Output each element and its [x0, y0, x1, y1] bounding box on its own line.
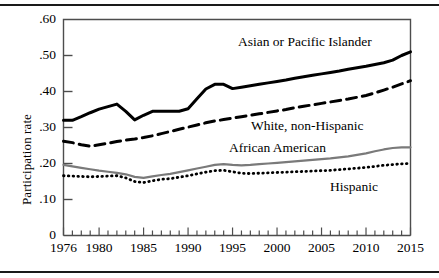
series-label-asian-or-pacific-islander: Asian or Pacific Islander [238, 34, 372, 50]
plot-canvas [0, 0, 439, 278]
y-tick-label: .10 [22, 191, 56, 207]
series-label-african-american: African American [229, 140, 326, 156]
participation-rate-chart-figure: Participation rate .60.50.40.30.20.100 1… [0, 0, 439, 278]
series-label-white-non-hispanic: White, non-Hispanic [251, 118, 363, 134]
series-path [64, 81, 411, 147]
series-label-hispanic: Hispanic [330, 179, 378, 195]
y-tick-label: .20 [22, 155, 56, 171]
y-tick-label: .40 [22, 83, 56, 99]
x-tick-label: 2015 [381, 240, 439, 256]
y-tick-label: .60 [22, 11, 56, 27]
series-path [64, 52, 411, 120]
y-tick-label: .30 [22, 119, 56, 135]
y-tick-label: .50 [22, 47, 56, 63]
